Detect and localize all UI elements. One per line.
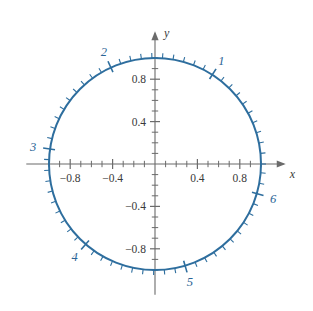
circle-minor-tick [214,252,217,256]
circle-minor-tick [55,211,59,213]
x-axis-label: x [289,167,296,181]
circle-major-tick-3 [43,148,55,150]
circle-minor-tick [143,269,144,274]
circle-minor-tick [256,131,261,132]
unit-circle-plot: −0.8−0.40.40.80.80.4−0.4−0.8xy123456 [0,0,313,311]
circle-minor-tick [141,54,142,59]
x-tick-label: 0.8 [233,172,248,184]
circle-minor-tick [203,65,205,69]
circle-minor-tick [74,237,78,240]
circle-minor-tick [73,89,77,92]
unit-circle-figure: −0.8−0.40.40.80.80.4−0.4−0.8xy123456 [0,0,313,311]
circle-minor-tick [229,84,232,88]
circle-minor-tick [121,265,123,270]
circle-minor-tick [45,181,50,182]
x-tick-label: 0.4 [190,172,205,184]
y-axis-arrowhead [151,31,158,40]
x-tick-label: −0.8 [60,172,81,184]
y-axis-label: y [163,26,170,40]
x-axis-arrowhead [277,160,286,167]
circle-minor-tick [236,92,240,95]
circle-minor-tick [260,153,265,154]
circle-minor-tick [221,77,224,81]
circle-minor-tick [248,111,252,113]
circle-minor-tick [91,251,94,255]
radian-label-3: 3 [29,140,36,154]
circle-minor-tick [222,246,225,250]
radian-label-2: 2 [101,45,107,59]
circle-minor-tick [55,117,60,119]
circle-minor-tick [60,107,64,110]
circle-minor-tick [205,258,207,262]
radian-label-4: 4 [71,250,77,264]
circle-minor-tick [195,262,197,267]
circle-minor-tick [99,68,102,72]
circle-minor-tick [242,101,246,104]
circle-minor-tick [101,256,103,260]
circle-minor-tick [81,81,84,85]
circle-minor-tick [111,261,113,266]
radian-label-6: 6 [270,192,277,206]
x-tick-label: −0.4 [102,172,123,184]
circle-minor-tick [61,220,65,223]
circle-minor-tick [119,59,121,64]
circle-minor-tick [253,121,258,123]
y-tick-label: −0.4 [125,200,146,212]
circle-minor-tick [237,231,241,234]
y-tick-label: −0.8 [125,243,146,255]
circle-minor-tick [67,229,71,232]
y-tick-label: 0.4 [132,116,147,128]
radian-label-5: 5 [187,275,193,289]
circle-minor-tick [249,213,253,215]
circle-minor-tick [243,222,247,225]
circle-minor-tick [66,98,70,101]
circle-minor-tick [230,239,234,243]
radian-label-1: 1 [218,54,224,68]
y-tick-label: 0.8 [132,73,147,85]
circle-minor-tick [183,57,184,62]
circle-minor-tick [90,74,93,78]
